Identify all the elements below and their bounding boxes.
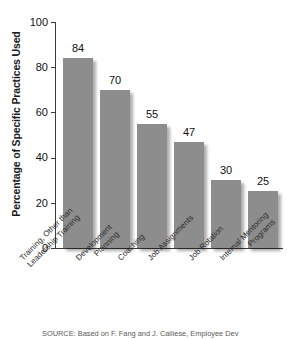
bar-chart-figure: Percentage of Specific Practices Used 10…	[0, 0, 288, 339]
source-note: SOURCE: Based on F. Fang and J. Calliese…	[42, 329, 288, 338]
plot-area: 84 70 55 47 30 25	[55, 22, 281, 248]
y-tick-label-100: 100	[22, 17, 48, 28]
bar-value-label: 55	[131, 109, 173, 120]
bar-value-label: 47	[168, 127, 210, 138]
bar-series: 84 70 55 47 30 25	[56, 22, 282, 248]
y-axis-title: Percentage of Specific Practices Used	[10, 4, 22, 244]
bar-value-label: 84	[57, 43, 99, 54]
y-tick-label-40: 40	[22, 152, 48, 163]
bar-rect[interactable]	[137, 124, 167, 248]
y-tick-label-60: 60	[22, 107, 48, 118]
y-tick-label-80: 80	[22, 62, 48, 73]
x-axis-category-labels: Training, Other than Leadership Training…	[0, 250, 288, 328]
bar-value-label: 30	[205, 165, 247, 176]
bar-value-label: 70	[94, 75, 136, 86]
y-tick-label-20: 20	[22, 198, 48, 209]
bar-value-label: 25	[242, 176, 284, 187]
